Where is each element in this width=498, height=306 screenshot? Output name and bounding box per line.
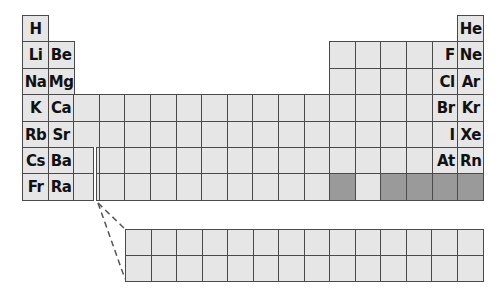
f-block-connector-lines <box>0 0 498 306</box>
